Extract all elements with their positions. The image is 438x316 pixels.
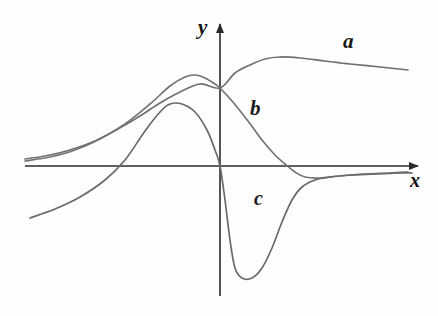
figure-container: a b c y x <box>0 0 438 316</box>
curve-label-c: c <box>254 188 263 208</box>
curve-label-b: b <box>250 98 261 119</box>
y-axis-label: y <box>198 17 207 38</box>
x-axis-label: x <box>410 170 420 190</box>
curves-group <box>25 57 412 279</box>
curve-b <box>25 75 408 178</box>
curve-a <box>25 57 408 159</box>
curve-label-a: a <box>343 31 354 52</box>
plot-canvas <box>0 0 438 316</box>
curve-c <box>30 103 412 279</box>
